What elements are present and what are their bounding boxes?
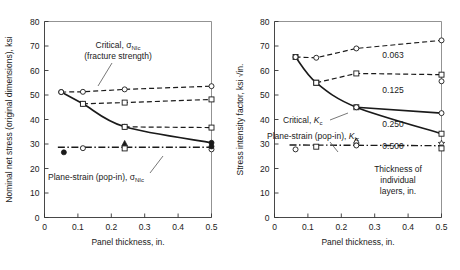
y-tick-label: 40 [260,115,270,125]
marker-open-circle [439,79,444,84]
y-axis-right: 01020304050607080 [260,17,278,223]
layer-label-0250: 0.250 [382,119,404,129]
x-tick-label: 0.3 [369,222,381,232]
series-line [316,73,441,82]
annotations-right: Critical, KcPlane-strain (pop-in), KIc0.… [267,50,422,196]
marker-open-square [122,146,127,151]
marker-open-square [209,97,214,102]
marker-open-square [122,100,127,105]
series-markers-left [59,84,214,146]
thickness-caption-line: Thickness of [374,164,422,174]
y-tick-label: 60 [260,66,270,76]
y-tick-label: 20 [30,164,40,174]
marker-open-circle [354,143,359,148]
marker-open-square [439,72,444,77]
layer-label-0063: 0.063 [382,50,404,60]
y-tick-label: 80 [30,17,40,27]
x-tick-label: 0.3 [139,222,151,232]
y-tick-label: 70 [30,41,40,51]
marker-open-square [354,71,359,76]
series-right [290,40,442,145]
marker-open-circle [293,55,298,60]
x-axis-left: 00.10.20.30.40.5Panel thickness, in. [42,214,218,247]
thickness-caption-line: layers, in. [380,186,416,196]
plane-strain-annotation: Plane-strain (pop-in), σNIc [48,172,144,183]
series-line [83,99,212,103]
marker-open-circle [59,90,64,95]
x-tick-label: 0.1 [72,222,84,232]
thickness-caption-line: individual [380,175,416,185]
figure-root: 0102030405060708000.10.20.30.40.5Panel t… [0,0,460,270]
panel-left: 0102030405060708000.10.20.30.40.5Panel t… [4,17,448,247]
marker-open-square [439,131,444,136]
x-tick-label: 0.2 [335,222,347,232]
y-tick-label: 0 [265,213,270,223]
x-tick-label: 0.5 [206,222,218,232]
x-tick-label: 0 [272,222,277,232]
x-axis-right: 00.10.20.30.40.5Panel thickness, in. [272,214,448,247]
y-tick-label: 0 [35,213,40,223]
leader-line-kic [330,142,338,152]
y-tick-label: 70 [260,41,270,51]
series-left [58,86,212,147]
y-tick-label: 30 [30,139,40,149]
dual-panel-chart: 0102030405060708000.10.20.30.40.5Panel t… [0,0,460,270]
x-axis-title: Panel thickness, in. [91,237,164,247]
critical-annotation-line2: (fracture strength) [84,51,152,61]
y-tick-label: 20 [260,164,270,174]
series-line [125,127,212,128]
marker-open-circle [80,146,85,151]
x-tick-label: 0.2 [105,222,117,232]
marker-open-square [439,146,444,151]
marker-open-circle [354,105,359,110]
x-tick-label: 0 [42,222,47,232]
y-tick-label: 80 [260,17,270,27]
scatter-points-left [61,140,214,154]
y-tick-label: 40 [30,115,40,125]
y-axis-title: Stress intensity factor, ksi √in. [235,64,245,176]
marker-open-circle [439,38,444,43]
x-tick-label: 0.1 [302,222,314,232]
y-tick-label: 10 [260,188,270,198]
marker-filled-circle [61,150,66,155]
marker-open-circle [80,89,85,94]
marker-open-circle [122,87,127,92]
leader-line-critical [98,63,112,86]
marker-filled-circle [209,144,214,149]
leader-line-plane-strain [150,156,163,173]
y-tick-label: 60 [30,66,40,76]
y-tick-label: 50 [260,90,270,100]
series-line [290,145,442,146]
marker-open-square [80,101,85,106]
marker-filled-triangle [122,140,128,145]
layer-label-0500: 0.500 [382,141,404,151]
x-tick-label: 0.4 [172,222,184,232]
x-tick-label: 0.4 [402,222,414,232]
layer-label-0125: 0.125 [382,85,404,95]
marker-open-circle [439,111,444,116]
x-tick-label: 0.5 [436,222,448,232]
x-axis-title: Panel thickness, in. [321,237,394,247]
y-axis-left: 01020304050607080 [30,17,48,223]
marker-open-circle [354,46,359,51]
marker-open-circle [293,147,298,152]
marker-open-circle [314,55,319,60]
marker-open-square [122,124,127,129]
leader-line-kc [330,113,348,120]
critical-annotation-line1: Critical, σNIc [96,40,141,51]
y-tick-label: 10 [30,188,40,198]
marker-open-square [314,80,319,85]
marker-open-circle [209,84,214,89]
y-axis-title: Nominal net stress (original dimensions)… [4,36,14,202]
plane-strain-kic-annotation: Plane-strain (pop-in), KIc [267,131,359,142]
marker-open-square [209,125,214,130]
y-tick-label: 50 [30,90,40,100]
marker-open-square [314,144,319,149]
critical-kc-annotation: Critical, Kc [283,115,322,126]
annotations-left: Critical, σNIc(fracture strength)Plane-s… [48,40,163,183]
